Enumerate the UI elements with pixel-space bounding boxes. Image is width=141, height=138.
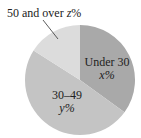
label-over50: 50 and over z%	[7, 6, 81, 20]
label-under30-value: x%	[98, 68, 114, 82]
pie-chart: 50 and over z% Under 30 x% 30–49 y%	[0, 0, 141, 138]
label-30-49-value: y%	[58, 101, 74, 115]
pie-slices	[25, 25, 135, 135]
label-under30: Under 30	[85, 55, 130, 69]
label-30-49: 30–49	[52, 88, 82, 102]
